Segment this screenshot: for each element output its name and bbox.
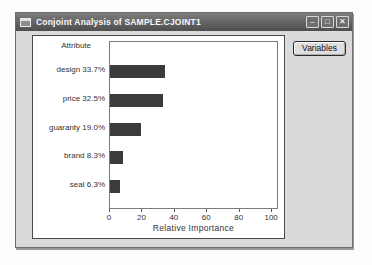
plot-area bbox=[109, 41, 278, 209]
variables-button[interactable]: Variables bbox=[293, 41, 346, 56]
x-tick bbox=[271, 209, 272, 212]
x-tick bbox=[174, 209, 175, 212]
x-tick bbox=[141, 209, 142, 212]
bar-design bbox=[110, 65, 165, 78]
x-tick bbox=[206, 209, 207, 212]
close-button[interactable]: ✕ bbox=[336, 16, 349, 28]
category-label-design: design 33.7% bbox=[33, 65, 105, 74]
x-tick bbox=[109, 209, 110, 212]
chart-column-header: Attribute bbox=[33, 41, 91, 50]
bar-brand bbox=[110, 151, 123, 164]
x-tick bbox=[239, 209, 240, 212]
bar-guaranty bbox=[110, 123, 141, 136]
title-bar[interactable]: Conjoint Analysis of SAMPLE.CJOINT1 – □ … bbox=[16, 13, 352, 31]
window-title: Conjoint Analysis of SAMPLE.CJOINT1 bbox=[36, 17, 304, 27]
category-label-guaranty: guaranty 19.0% bbox=[33, 123, 105, 132]
x-tick-label: 0 bbox=[100, 213, 118, 222]
x-tick-label: 100 bbox=[262, 213, 280, 222]
category-label-price: price 32.5% bbox=[33, 94, 105, 103]
x-tick-label: 80 bbox=[230, 213, 248, 222]
maximize-button[interactable]: □ bbox=[321, 16, 334, 28]
x-tick-label: 60 bbox=[197, 213, 215, 222]
bar-price bbox=[110, 94, 163, 107]
chart-panel: Attribute Relative Importance design 33.… bbox=[32, 35, 285, 239]
x-tick-label: 20 bbox=[132, 213, 150, 222]
x-tick-label: 40 bbox=[165, 213, 183, 222]
app-window: Conjoint Analysis of SAMPLE.CJOINT1 – □ … bbox=[15, 12, 353, 248]
category-label-brand: brand 8.3% bbox=[33, 151, 105, 160]
bar-seal bbox=[110, 180, 120, 193]
minimize-button[interactable]: – bbox=[306, 16, 319, 28]
x-axis-title: Relative Importance bbox=[109, 223, 278, 233]
app-icon bbox=[20, 18, 31, 27]
category-label-seal: seal 6.3% bbox=[33, 180, 105, 189]
